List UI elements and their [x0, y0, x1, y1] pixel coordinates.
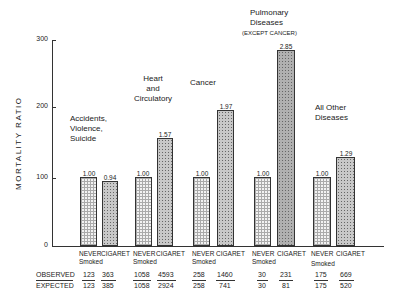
x-axis [52, 246, 384, 247]
tick-label: 300 [22, 35, 48, 42]
x-label-cigaret: CIGARET [101, 250, 130, 257]
expected-value: 2924 [158, 282, 174, 289]
observed-value: 1460 [217, 271, 233, 278]
expected-value: 520 [340, 282, 352, 289]
observed-value: 669 [340, 271, 352, 278]
x-label-never: NEVER [311, 250, 333, 257]
observed-value: 4593 [158, 271, 174, 278]
observed-value: 30 [258, 271, 266, 278]
x-label-smoked: Smoked [311, 260, 335, 267]
x-label-cigaret: CIGARET [156, 250, 185, 257]
label-line: Diseases [315, 113, 365, 123]
label-line: All Other [315, 103, 365, 113]
value-label: 0.94 [95, 174, 125, 181]
bar-cigaret [277, 50, 295, 246]
observed-value: 175 [315, 271, 327, 278]
value-label: 1.00 [187, 170, 217, 177]
x-label-smoked: Smoked [192, 258, 216, 265]
tick [52, 40, 56, 41]
label-line: and [125, 84, 181, 94]
bar-never [254, 177, 271, 246]
tick-label: 0 [22, 241, 48, 248]
x-label-smoked: Smoked [79, 258, 103, 265]
bar-cigaret [102, 181, 118, 246]
category-label: Pulmonary Diseases (EXCEPT CANCER) [242, 8, 302, 38]
row-label-expected: EXPECTED [36, 282, 74, 289]
x-label-never: NEVER [192, 250, 214, 257]
x-label-never: NEVER [133, 250, 155, 257]
observed-value: 363 [102, 271, 114, 278]
observed-value: 1058 [134, 271, 150, 278]
y-axis [52, 40, 53, 246]
bar-never [135, 177, 152, 246]
label-line: Pulmonary [242, 8, 302, 18]
x-label-never: NEVER [252, 250, 274, 257]
x-label-cigaret: CIGARET [336, 250, 365, 257]
expected-value: 385 [102, 282, 114, 289]
bar-never [80, 177, 97, 246]
label-line: Accidents, [70, 114, 130, 124]
value-label: 1.00 [128, 170, 158, 177]
category-label: Cancer [183, 78, 223, 88]
expected-value: 258 [193, 282, 205, 289]
label-line: (EXCEPT CANCER) [242, 28, 302, 38]
value-label: 2.85 [271, 43, 301, 50]
expected-value: 123 [83, 282, 95, 289]
value-label: 1.00 [248, 170, 278, 177]
x-label-cigaret: CIGARET [277, 250, 306, 257]
tick-label: 100 [22, 173, 48, 180]
observed-value: 123 [83, 271, 95, 278]
expected-value: 1058 [134, 282, 150, 289]
bar-cigaret [336, 157, 355, 246]
row-label-observed: OBSERVED [36, 271, 75, 278]
bar-never [193, 177, 210, 246]
label-line: Circulatory [125, 94, 181, 104]
divider [36, 280, 73, 281]
label-line: Diseases [242, 18, 302, 28]
value-label: 1.00 [307, 170, 337, 177]
value-label: 1.29 [331, 150, 361, 157]
expected-value: 81 [282, 282, 290, 289]
category-label: Heart and Circulatory [125, 74, 181, 104]
x-label-never: NEVER [79, 250, 101, 257]
label-line: Suicide [70, 134, 130, 144]
expected-value: 30 [258, 282, 266, 289]
x-label-smoked: Smoked [133, 258, 157, 265]
label-line: Heart [125, 74, 181, 84]
label-line: Cancer [183, 78, 223, 88]
label-line: Violence, [70, 124, 130, 134]
category-label: All Other Diseases [315, 103, 365, 123]
x-label-smoked: Smoked [252, 258, 276, 265]
expected-value: 175 [315, 282, 327, 289]
expected-value: 741 [219, 282, 231, 289]
bar-never [313, 177, 331, 246]
category-label: Accidents, Violence, Suicide [70, 114, 130, 144]
bar-cigaret [157, 138, 173, 246]
observed-value: 258 [193, 271, 205, 278]
value-label: 1.57 [150, 131, 180, 138]
tick [52, 178, 56, 179]
value-label: 1.97 [211, 103, 241, 110]
tick-label: 200 [22, 102, 48, 109]
x-label-cigaret: CIGARET [216, 250, 245, 257]
observed-value: 231 [280, 271, 292, 278]
bar-cigaret [217, 110, 234, 246]
tick [52, 107, 56, 108]
